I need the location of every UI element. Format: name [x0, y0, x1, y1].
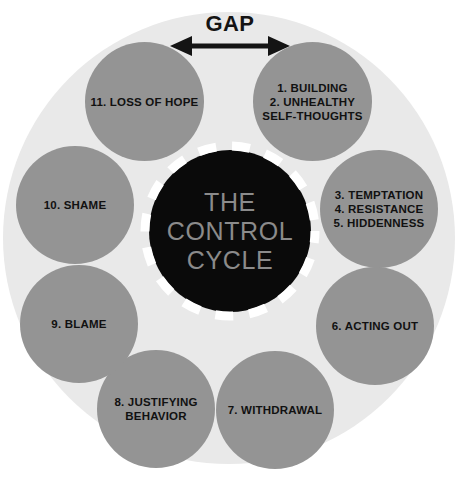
double-headed-horizontal-arrow-icon [170, 36, 290, 56]
node-label: 9. BLAME [51, 317, 106, 331]
node-label: 8. JUSTIFYING BEHAVIOR [114, 395, 197, 423]
node-loss-of-hope[interactable]: 11. LOSS OF HOPE [85, 42, 204, 161]
gap-label: GAP [168, 12, 292, 36]
node-label: 6. ACTING OUT [332, 319, 419, 333]
core-title-line-2: CONTROL [167, 217, 293, 246]
node-acting-out[interactable]: 6. ACTING OUT [316, 267, 434, 385]
node-withdrawal[interactable]: 7. WITHDRAWAL [216, 351, 334, 469]
node-label: 7. WITHDRAWAL [228, 403, 323, 417]
node-blame[interactable]: 9. BLAME [20, 265, 138, 383]
node-temptation-resistance-hiddenness[interactable]: 3. TEMPTATION 4. RESISTANCE 5. HIDDENNES… [320, 150, 438, 268]
control-cycle-core: THE CONTROL CYCLE [140, 141, 320, 321]
node-building-unhealthy-self-thoughts[interactable]: 1. BUILDING 2. UNHEALTHY SELF-THOUGHTS [253, 42, 372, 161]
core-title: THE CONTROL CYCLE [140, 141, 320, 321]
node-label: 3. TEMPTATION 4. RESISTANCE 5. HIDDENNES… [334, 188, 425, 230]
node-label: 10. SHAME [44, 198, 107, 212]
core-title-line-1: THE [204, 188, 256, 217]
gap-annotation: GAP [168, 12, 292, 54]
node-shame[interactable]: 10. SHAME [16, 146, 134, 264]
node-label: 1. BUILDING 2. UNHEALTHY SELF-THOUGHTS [262, 81, 362, 123]
node-label: 11. LOSS OF HOPE [90, 95, 198, 109]
control-cycle-diagram: GAP THE CONTROL CYCLE 1. BUILDING 2. UNH… [0, 0, 456, 479]
core-title-line-3: CYCLE [187, 246, 273, 275]
